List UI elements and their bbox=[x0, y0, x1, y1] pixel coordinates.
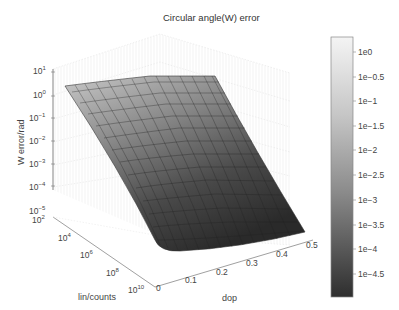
colorbar-tick: 1e−3 bbox=[358, 195, 377, 205]
svg-text:0.1: 0.1 bbox=[185, 275, 197, 285]
svg-text:106: 106 bbox=[80, 249, 93, 260]
colorbar-tick: 1e−4.5 bbox=[358, 269, 384, 279]
colorbar-tick: 1e−1.5 bbox=[358, 121, 384, 131]
z-tick-labels: 101 100 10−1 10−2 10−3 10−4 10−5 bbox=[29, 65, 46, 216]
colorbar-tick: 1e−0.5 bbox=[358, 72, 384, 82]
svg-text:108: 108 bbox=[106, 267, 119, 278]
z-axis-label: W error/rad bbox=[16, 119, 26, 165]
svg-text:102: 102 bbox=[32, 214, 45, 225]
x-axis-label: lin/counts bbox=[78, 292, 117, 302]
svg-text:10−3: 10−3 bbox=[29, 158, 46, 169]
svg-text:0.2: 0.2 bbox=[216, 267, 228, 277]
svg-text:0: 0 bbox=[156, 283, 161, 293]
svg-text:101: 101 bbox=[33, 65, 46, 76]
colorbar bbox=[331, 37, 353, 297]
x-axis-line bbox=[53, 217, 155, 287]
svg-text:1010: 1010 bbox=[128, 284, 145, 295]
svg-text:10−1: 10−1 bbox=[29, 112, 46, 123]
svg-text:0.4: 0.4 bbox=[276, 249, 288, 259]
svg-text:10−4: 10−4 bbox=[29, 181, 46, 192]
svg-text:104: 104 bbox=[58, 232, 71, 243]
surface-plot: 101 100 10−1 10−2 10−3 10−4 10−5 W error… bbox=[0, 0, 399, 310]
colorbar-tick: 1e−2.5 bbox=[358, 170, 384, 180]
svg-text:0.3: 0.3 bbox=[246, 258, 258, 268]
svg-text:100: 100 bbox=[33, 89, 46, 100]
svg-text:10−2: 10−2 bbox=[29, 135, 46, 146]
svg-text:0.5: 0.5 bbox=[306, 240, 318, 250]
y-axis-label: dop bbox=[222, 293, 237, 303]
colorbar-tick: 1e−2 bbox=[358, 145, 377, 155]
colorbar-tick: 1e0 bbox=[358, 47, 372, 57]
colorbar-tick: 1e−1 bbox=[358, 96, 377, 106]
colorbar-tick: 1e−4 bbox=[358, 244, 377, 254]
colorbar-tick: 1e−3.5 bbox=[358, 220, 384, 230]
x-tick-labels: 102 104 106 108 1010 bbox=[32, 214, 145, 295]
